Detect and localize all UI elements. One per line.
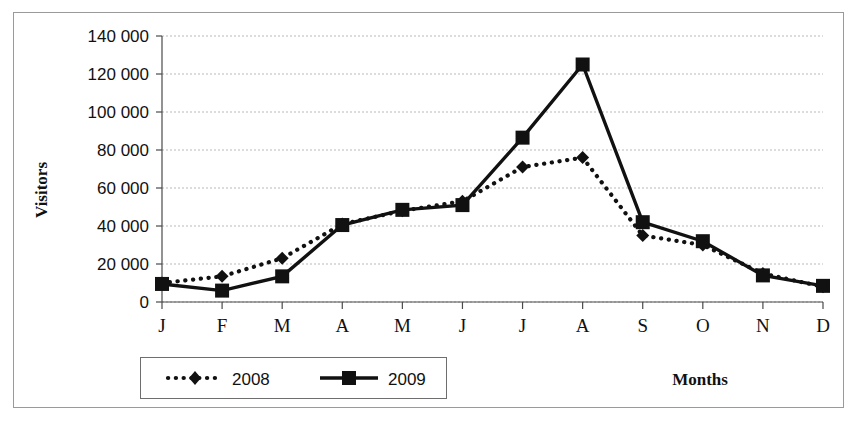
- data-point-marker: [155, 277, 169, 291]
- x-category-label: J: [158, 315, 165, 336]
- x-category-label: M: [274, 315, 291, 336]
- data-point-marker: [696, 234, 710, 248]
- x-category-label: A: [335, 315, 349, 336]
- x-category-label: M: [394, 315, 411, 336]
- legend-marker-square-2009: [342, 371, 356, 385]
- x-axis-category-labels: JFMAMJJASOND: [158, 315, 830, 336]
- y-tick-label: 20 000: [97, 255, 149, 274]
- data-point-marker: [455, 198, 469, 212]
- x-category-label: A: [576, 315, 590, 336]
- y-tick-label: 40 000: [97, 217, 149, 236]
- visitors-line-chart: 020 00040 00060 00080 000100 000120 0001…: [0, 0, 857, 426]
- y-tick-label: 60 000: [97, 179, 149, 198]
- data-point-marker: [275, 269, 289, 283]
- x-category-label: J: [459, 315, 466, 336]
- y-axis-tick-marks: [156, 36, 162, 302]
- y-tick-label: 0: [140, 293, 149, 312]
- legend-label-2008: 2008: [232, 370, 270, 389]
- legend-label-2009: 2009: [388, 370, 426, 389]
- data-point-marker: [516, 131, 530, 145]
- data-point-marker: [215, 284, 229, 298]
- y-tick-label: 140 000: [88, 27, 149, 46]
- x-axis-tick-marks: [162, 302, 823, 309]
- data-point-marker: [816, 279, 830, 293]
- data-point-marker: [636, 215, 650, 229]
- y-tick-label: 100 000: [88, 103, 149, 122]
- x-category-label: S: [637, 315, 648, 336]
- data-point-marker: [335, 218, 349, 232]
- x-category-label: N: [756, 315, 770, 336]
- x-category-label: D: [816, 315, 830, 336]
- data-point-marker: [395, 203, 409, 217]
- chart-legend[interactable]: 2008 2009: [141, 358, 447, 399]
- y-tick-label: 80 000: [97, 141, 149, 160]
- data-point-marker: [576, 58, 590, 72]
- x-category-label: F: [217, 315, 228, 336]
- x-category-label: J: [519, 315, 526, 336]
- y-axis-tick-labels: 020 00040 00060 00080 000100 000120 0001…: [88, 27, 149, 312]
- x-category-label: O: [696, 315, 710, 336]
- y-axis-title: Visitors: [32, 162, 51, 218]
- x-axis-title: Months: [672, 370, 728, 389]
- data-point-marker: [756, 268, 770, 282]
- y-tick-label: 120 000: [88, 65, 149, 84]
